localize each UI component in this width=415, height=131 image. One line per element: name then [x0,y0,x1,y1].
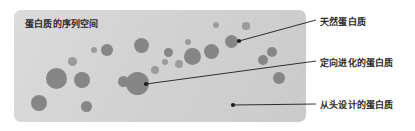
protein-blob [204,44,219,59]
protein-blob [81,101,92,112]
protein-blob [74,72,90,88]
protein-blob [185,39,192,46]
protein-blob [151,66,159,74]
protein-blob [134,38,149,53]
protein-blob [175,60,183,68]
callout-label-natural-protein: 天然蛋白质 [320,15,366,28]
protein-blob [68,57,77,66]
callout-label-directed-evolution-protein: 定向进化的蛋白质 [320,56,394,69]
protein-blob [225,35,238,48]
protein-blob [91,47,97,53]
protein-blob [162,59,168,65]
panel-title: 蛋白质的序列空间 [25,17,99,30]
protein-blob [101,44,113,56]
protein-blob [164,48,173,57]
protein-blob [258,55,268,65]
protein-blob [273,72,285,84]
protein-blob [267,47,277,57]
callout-label-de-novo-designed-protein: 从头设计的蛋白质 [320,98,394,111]
protein-sequence-space-figure: 蛋白质的序列空间 天然蛋白质 定向进化的蛋白质 从头设计的蛋白质 [0,0,415,131]
sequence-space-panel: 蛋白质的序列空间 [14,10,306,122]
protein-blob [242,22,249,29]
protein-blob [31,95,47,111]
protein-blob [46,68,67,89]
protein-blob [126,72,149,95]
protein-blob [213,22,219,28]
protein-blob [184,48,201,65]
